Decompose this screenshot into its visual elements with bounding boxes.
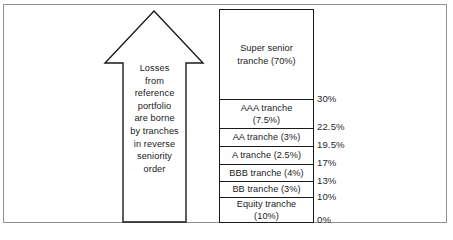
arrow-caption-line: by tranches [123, 125, 186, 138]
arrow-caption-line: in reverse [123, 138, 186, 151]
arrow-caption-line: seniority [123, 150, 186, 163]
tranche-label: BBB tranche (4%) [229, 167, 303, 179]
tranche-bb: BB tranche (3%) [220, 181, 313, 197]
arrow-caption-line: from [123, 75, 186, 88]
tranche-label: (7.5%) [241, 114, 293, 126]
tranche-label: A tranche (2.5%) [232, 149, 301, 161]
tranche-equity: Equity tranche (10%) [220, 197, 313, 222]
arrow-caption-line: are borne [123, 112, 186, 125]
tranche-label: AA tranche (3%) [233, 131, 301, 143]
tranche-super-senior: Super senior tranche (70%) [220, 10, 313, 99]
tranche-aa: AA tranche (3%) [220, 128, 313, 146]
arrow-caption-line: Losses [123, 62, 186, 75]
arrow-caption-line: order [123, 163, 186, 176]
tranche-aaa: AAA tranche (7.5%) [220, 99, 313, 128]
axis-tick-19-5: 19.5% [317, 140, 345, 150]
tranche-stack: Super senior tranche (70%) AAA tranche (… [219, 9, 314, 223]
axis-tick-0: 0% [317, 215, 331, 225]
tranche-label: AAA tranche [241, 102, 293, 114]
arrow-caption: Losses from reference portfolio are born… [123, 62, 186, 175]
losses-arrow: Losses from reference portfolio are born… [103, 9, 205, 224]
axis-tick-10: 10% [317, 192, 337, 202]
tranche-a: A tranche (2.5%) [220, 146, 313, 164]
tranche-label: Equity tranche [237, 198, 296, 210]
tranche-bbb: BBB tranche (4%) [220, 164, 313, 181]
tranche-label: tranche (70%) [237, 55, 295, 67]
axis-tick-30: 30% [317, 94, 337, 104]
arrow-caption-line: reference [123, 87, 186, 100]
tranche-label: BB tranche (3%) [232, 183, 300, 195]
tranche-label: (10%) [237, 210, 296, 222]
axis-tick-22-5: 22.5% [317, 122, 345, 132]
tranche-label: Super senior [237, 42, 295, 54]
arrow-caption-line: portfolio [123, 100, 186, 113]
axis-tick-17: 17% [317, 158, 337, 168]
diagram-canvas: Losses from reference portfolio are born… [0, 0, 453, 240]
axis-tick-13: 13% [317, 176, 337, 186]
